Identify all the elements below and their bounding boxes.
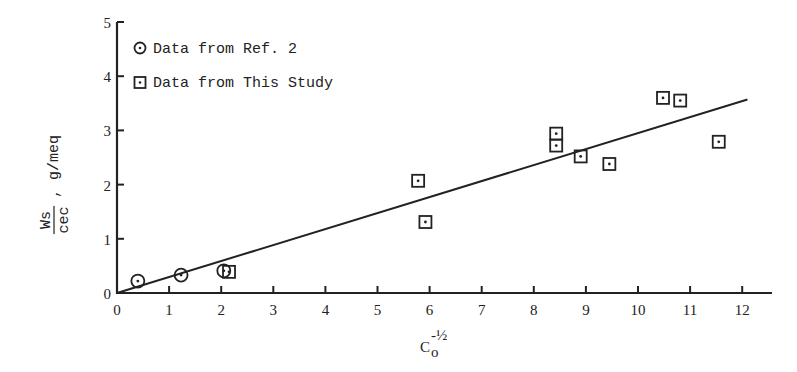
- y-tick-label: 0: [104, 286, 112, 302]
- x-tick-label: 9: [582, 302, 590, 318]
- legend: Data from Ref. 2 Data from This Study: [135, 41, 334, 92]
- square-marker-icon: [412, 175, 424, 187]
- legend-marker-square-icon: [135, 77, 146, 88]
- square-marker-icon: [550, 140, 562, 152]
- y-tick-label: 3: [104, 123, 112, 139]
- y-axis-denominator: cec: [56, 206, 73, 233]
- x-tick-label: 7: [478, 302, 486, 318]
- y-axis-title: Ws cec , g/meq: [38, 135, 73, 234]
- square-marker-icon: [713, 136, 725, 148]
- y-tick-label: 2: [104, 178, 112, 194]
- x-axis-subscript: o: [431, 344, 439, 360]
- square-marker-icon: [657, 92, 669, 104]
- square-marker-icon: [419, 216, 431, 228]
- y-tick-label: 1: [104, 232, 112, 248]
- x-tick-label: 12: [735, 302, 750, 318]
- x-tick-label: 11: [683, 302, 697, 318]
- y-axis-numerator: Ws: [38, 211, 55, 229]
- y-tick-label: 4: [104, 69, 112, 85]
- x-tick-label: 2: [217, 302, 225, 318]
- x-tick-label: 4: [322, 302, 330, 318]
- legend-marker-circle-icon: [135, 43, 146, 54]
- y-tick-label: 5: [104, 15, 112, 31]
- square-marker-icon: [603, 158, 615, 170]
- square-marker-icon: [550, 128, 562, 140]
- x-tick-label: 5: [374, 302, 382, 318]
- scatter-chart: 0123450123456789101112 Data from Ref. 2 …: [0, 0, 797, 372]
- x-tick-label: 3: [270, 302, 278, 318]
- x-axis-base: C: [420, 339, 430, 355]
- x-tick-label: 0: [113, 302, 121, 318]
- fit-line: [117, 100, 747, 293]
- x-tick-label: 6: [426, 302, 434, 318]
- x-tick-label: 8: [530, 302, 538, 318]
- square-marker-icon: [674, 95, 686, 107]
- y-axis-units: , g/meq: [46, 135, 63, 198]
- x-tick-label: 1: [165, 302, 173, 318]
- legend-label-ref: Data from Ref. 2: [153, 41, 297, 58]
- x-axis-superscript: -½: [431, 327, 447, 343]
- legend-label-study: Data from This Study: [153, 75, 333, 92]
- x-tick-label: 10: [631, 302, 646, 318]
- x-axis-title: C o -½: [420, 327, 447, 360]
- axes: 0123450123456789101112: [104, 15, 773, 318]
- data-points: [131, 92, 724, 288]
